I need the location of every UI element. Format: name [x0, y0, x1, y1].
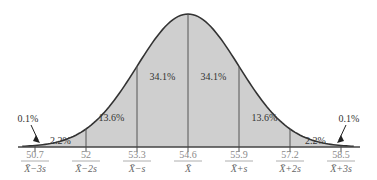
tick-symbol: X̄−3s	[23, 163, 46, 174]
tick-value: 55.9	[230, 149, 248, 160]
tick-value: 50.7	[26, 149, 44, 160]
tick-symbol: X̄−s	[128, 163, 146, 174]
x-axis-tick-labels: 50.7X̄−3s52X̄−2s53.3X̄−s54.6X̄55.9X̄+s57…	[21, 149, 355, 174]
tick-value: 53.3	[128, 149, 146, 160]
normal-distribution-chart: 0.1%2.2%13.6%34.1%34.1%13.6%2.2%0.1% 50.…	[0, 0, 377, 180]
x-tick-label: 54.6X̄	[174, 149, 202, 174]
x-tick-label: 50.7X̄−3s	[21, 149, 49, 174]
tick-symbol: X̄	[184, 163, 192, 174]
region-percent-label: 34.1%	[150, 71, 176, 82]
tick-symbol: X̄+3s	[329, 163, 352, 174]
region-percent-label: 2.2%	[305, 135, 326, 146]
tick-symbol: X̄+s	[230, 163, 248, 174]
x-tick-label: 55.9X̄+s	[225, 149, 253, 174]
tick-value: 54.6	[179, 149, 197, 160]
tick-symbol: X̄+2s	[278, 163, 301, 174]
x-tick-label: 52X̄−2s	[72, 149, 100, 174]
region-percent-label: 34.1%	[201, 71, 227, 82]
sd-dividers	[35, 14, 341, 152]
region-percent-label: 0.1%	[18, 113, 39, 124]
tick-symbol: X̄−2s	[74, 163, 97, 174]
x-tick-label: 53.3X̄−s	[123, 149, 151, 174]
x-tick-label: 58.5X̄+3s	[327, 149, 355, 174]
tick-value: 57.2	[281, 149, 299, 160]
region-percent-label: 13.6%	[252, 112, 278, 123]
region-percent-label: 2.2%	[50, 135, 71, 146]
tick-value: 52	[81, 149, 91, 160]
region-percent-label: 0.1%	[339, 113, 360, 124]
right-tail-arrowhead-icon	[337, 135, 344, 143]
tick-value: 58.5	[332, 149, 350, 160]
x-tick-label: 57.2X̄+2s	[276, 149, 304, 174]
left-tail-arrowhead-icon	[33, 135, 40, 143]
region-percent-label: 13.6%	[99, 112, 125, 123]
